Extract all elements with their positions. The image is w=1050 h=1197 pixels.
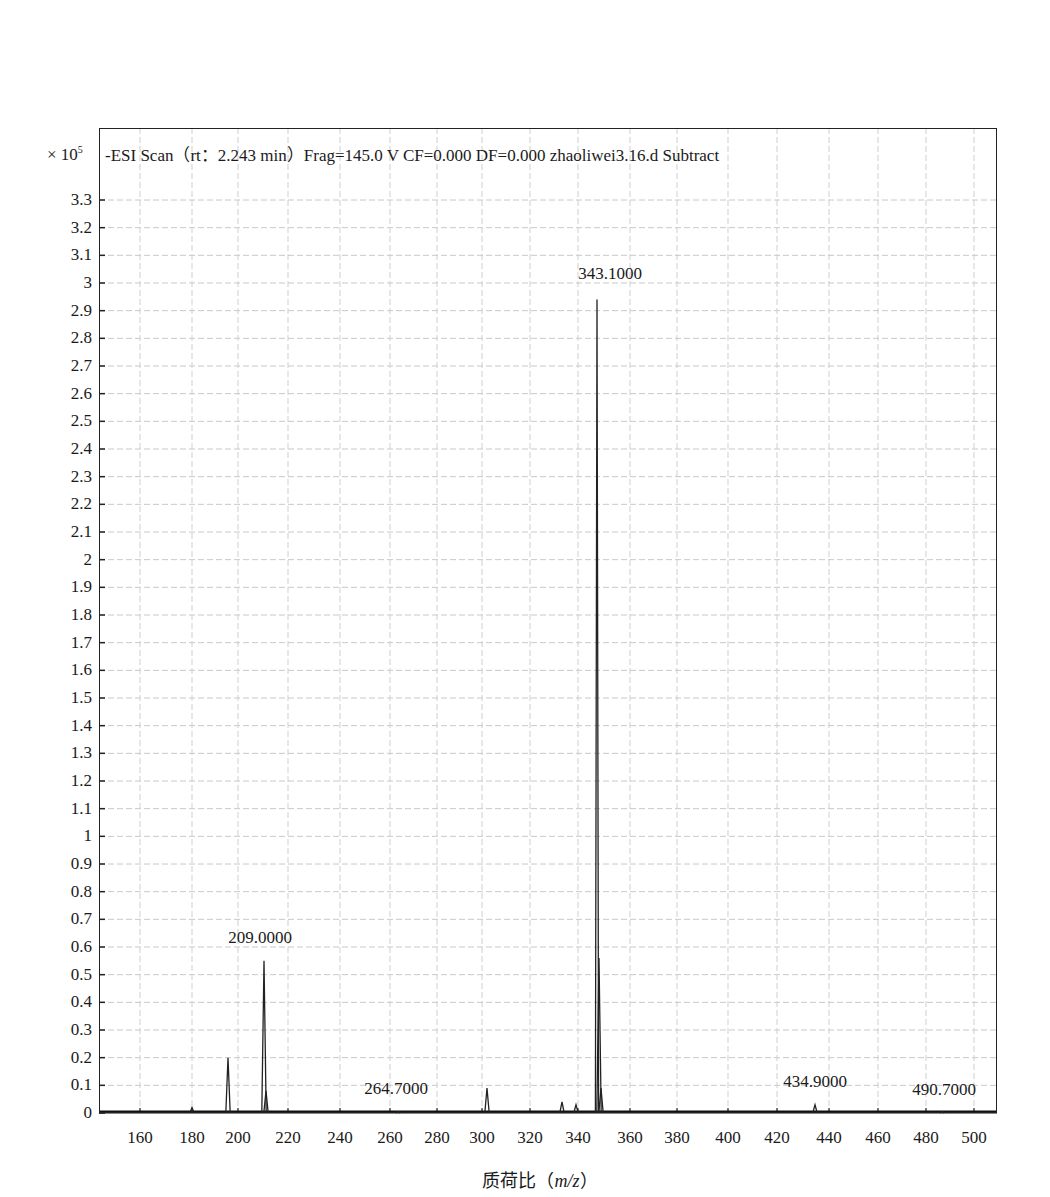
y-tick-label: 0.6 xyxy=(32,938,92,955)
y-tick-label: 0.9 xyxy=(32,855,92,872)
peak-label: 490.7000 xyxy=(912,1080,976,1100)
y-multiplier: × 105 xyxy=(47,144,83,165)
x-tick-label: 160 xyxy=(127,1128,153,1148)
x-tick-label: 260 xyxy=(377,1128,403,1148)
x-tick-label: 180 xyxy=(179,1128,205,1148)
y-tick-label: 2 xyxy=(32,551,92,568)
peak-label: 343.1000 xyxy=(578,264,642,284)
y-tick-label: 0.7 xyxy=(32,910,92,927)
y-tick-label: 2.7 xyxy=(32,357,92,374)
peak-label: 434.9000 xyxy=(783,1072,847,1092)
y-tick-label: 2.9 xyxy=(32,302,92,319)
y-tick-label: 1.5 xyxy=(32,689,92,706)
y-tick-label: 0.4 xyxy=(32,993,92,1010)
x-tick-label: 320 xyxy=(517,1128,543,1148)
x-tick-label: 360 xyxy=(617,1128,643,1148)
y-tick-label: 0.5 xyxy=(32,966,92,983)
x-tick-label: 380 xyxy=(664,1128,690,1148)
y-tick-label: 2.5 xyxy=(32,412,92,429)
x-axis-label: 质荷比（m/z） xyxy=(482,1166,597,1192)
y-tick-label: 2.6 xyxy=(32,385,92,402)
y-tick-label: 0.2 xyxy=(32,1049,92,1066)
y-tick-label: 1.8 xyxy=(32,606,92,623)
x-tick-label: 400 xyxy=(715,1128,741,1148)
x-tick-label: 240 xyxy=(327,1128,353,1148)
y-tick-label: 3.3 xyxy=(32,191,92,208)
y-tick-label: 1.4 xyxy=(32,717,92,734)
mass-spectrum-chart: × 105 -ESI Scan（rt：2.243 min）Frag=145.0 … xyxy=(0,0,1050,1197)
y-tick-label: 0 xyxy=(32,1104,92,1121)
x-tick-label: 440 xyxy=(816,1128,842,1148)
y-tick-label: 2.1 xyxy=(32,523,92,540)
peak-label: 209.0000 xyxy=(228,928,292,948)
y-tick-label: 1.1 xyxy=(32,800,92,817)
y-tick-label: 0.1 xyxy=(32,1076,92,1093)
x-tick-label: 460 xyxy=(865,1128,891,1148)
y-tick-label: 0.8 xyxy=(32,883,92,900)
y-tick-label: 3 xyxy=(32,274,92,291)
x-tick-label: 220 xyxy=(275,1128,301,1148)
x-tick-label: 500 xyxy=(961,1128,987,1148)
y-tick-label: 1.2 xyxy=(32,772,92,789)
y-tick-label: 2.8 xyxy=(32,329,92,346)
peak-label: 264.7000 xyxy=(364,1079,428,1099)
x-tick-label: 480 xyxy=(913,1128,939,1148)
y-tick-label: 1 xyxy=(32,827,92,844)
y-tick-label: 2.2 xyxy=(32,495,92,512)
x-tick-label: 300 xyxy=(469,1128,495,1148)
y-tick-label: 2.4 xyxy=(32,440,92,457)
y-tick-label: 1.7 xyxy=(32,634,92,651)
y-tick-label: 1.9 xyxy=(32,578,92,595)
y-tick-label: 3.2 xyxy=(32,219,92,236)
y-tick-label: 3.1 xyxy=(32,246,92,263)
chart-title: -ESI Scan（rt：2.243 min）Frag=145.0 V CF=0… xyxy=(105,141,719,166)
x-tick-label: 280 xyxy=(424,1128,450,1148)
y-tick-label: 1.3 xyxy=(32,744,92,761)
x-tick-label: 200 xyxy=(225,1128,251,1148)
x-tick-label: 340 xyxy=(565,1128,591,1148)
x-tick-label: 420 xyxy=(764,1128,790,1148)
plot-frame xyxy=(99,128,997,1113)
y-tick-label: 1.6 xyxy=(32,661,92,678)
y-tick-label: 2.3 xyxy=(32,468,92,485)
y-tick-label: 0.3 xyxy=(32,1021,92,1038)
